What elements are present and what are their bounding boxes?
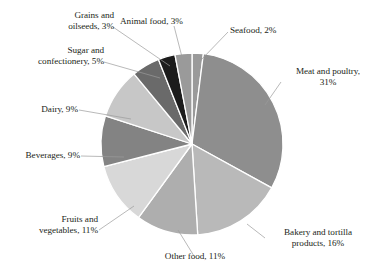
slice-label-bakery-and-tortilla-products: Bakery and tortilla products, 16% bbox=[266, 227, 370, 250]
slice-label-sugar-and-confectionery: Sugar and confectionery, 5% bbox=[6, 45, 104, 68]
leader-line-bakery-and-tortilla-products bbox=[247, 224, 265, 238]
slice-label-animal-food: Animal food, 3% bbox=[120, 16, 210, 27]
slice-label-meat-and-poultry: Meat and poultry, 31% bbox=[282, 66, 374, 89]
slice-label-beverages: Beverages, 9% bbox=[2, 150, 80, 161]
slice-label-dairy: Dairy, 9% bbox=[14, 104, 78, 115]
slice-label-seafood: Seafood, 2% bbox=[230, 25, 308, 36]
pie-chart: Grains and oilseeds, 3% Sugar and confec… bbox=[0, 0, 375, 278]
slice-label-grains-and-oilseeds: Grains and oilseeds, 3% bbox=[22, 10, 114, 33]
slice-label-other-food: Other food, 11% bbox=[150, 251, 240, 262]
slice-label-fruits-and-vegetables: Fruits and vegetables, 11% bbox=[10, 214, 98, 237]
pie-slices-group bbox=[101, 53, 283, 235]
leader-line-grains-and-oilseeds bbox=[113, 27, 170, 66]
leader-line-fruits-and-vegetables bbox=[99, 206, 134, 230]
leader-line-animal-food bbox=[174, 26, 182, 57]
